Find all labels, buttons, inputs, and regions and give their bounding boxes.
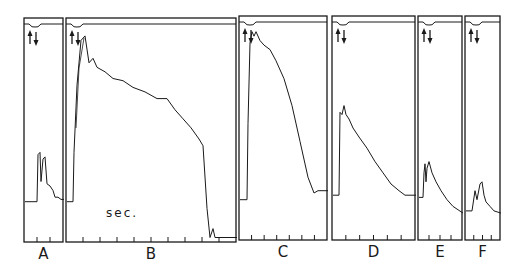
panel-d — [332, 16, 416, 240]
response-trace — [333, 106, 416, 196]
response-trace — [466, 182, 501, 213]
up-down-arrows-icon — [28, 30, 39, 46]
panel-label-e: E — [435, 243, 444, 261]
stimulus-marker-trace — [418, 22, 462, 25]
response-trace — [419, 162, 463, 214]
panel-b — [66, 18, 237, 242]
panel-frame — [465, 16, 500, 240]
panel-a — [24, 18, 64, 242]
stimulus-marker-trace — [465, 22, 500, 25]
up-down-arrows-icon — [469, 28, 480, 44]
panel-f — [465, 16, 501, 240]
panel-label-c: C — [278, 243, 288, 261]
stimulus-marker-trace — [239, 22, 327, 25]
response-trace — [67, 36, 237, 238]
panel-label-d: D — [368, 243, 380, 261]
up-down-arrows-icon — [243, 28, 254, 44]
time-axis-label: sec. — [106, 206, 138, 220]
panel-frame — [239, 16, 327, 240]
figure-canvas — [0, 0, 522, 264]
stimulus-marker-trace — [332, 22, 415, 25]
response-trace — [240, 32, 328, 200]
panel-frame — [418, 16, 462, 240]
panel-label-b: B — [146, 245, 156, 263]
stimulus-marker-trace — [24, 24, 63, 27]
panel-frame — [24, 18, 63, 242]
panel-e — [418, 16, 463, 240]
up-down-arrows-icon — [70, 30, 81, 46]
response-trace — [25, 152, 64, 201]
panel-frame — [66, 18, 236, 242]
stimulus-marker-trace — [66, 24, 236, 27]
panel-frame — [332, 16, 415, 240]
panel-c — [239, 16, 328, 240]
up-down-arrows-icon — [422, 28, 433, 44]
panel-label-a: A — [38, 245, 48, 263]
panel-label-f: F — [478, 243, 487, 261]
up-down-arrows-icon — [336, 28, 347, 44]
